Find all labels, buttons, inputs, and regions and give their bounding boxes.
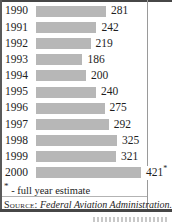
value-number: 200 <box>91 69 108 81</box>
bar <box>36 103 105 114</box>
bar-row: 1992 219 <box>0 35 172 51</box>
bar <box>36 6 106 17</box>
bar <box>36 135 117 146</box>
bar <box>36 151 116 162</box>
bar-row: 1999 321 <box>0 149 172 165</box>
source-divider <box>2 196 147 197</box>
bar-row: 1997 292 <box>0 116 172 132</box>
value-number: 292 <box>114 118 131 130</box>
value-label: 421* <box>145 166 168 180</box>
year-label: 1999 <box>0 151 36 163</box>
value-number: 186 <box>87 53 104 65</box>
footnote: * - full year estimate <box>4 182 90 196</box>
faa-bar-chart: 1990 281 1991 242 1992 219 1993 186 1994… <box>0 0 172 223</box>
bar <box>36 70 86 81</box>
value-number: 325 <box>122 134 139 146</box>
cropped-caption-fragment <box>93 217 169 222</box>
year-label: 1997 <box>0 119 36 131</box>
bar-row: 1996 275 <box>0 100 172 116</box>
value-number: 321 <box>121 150 138 162</box>
value-label: 292 <box>113 118 132 132</box>
bar-row: 1995 240 <box>0 84 172 100</box>
year-label: 1996 <box>0 102 36 114</box>
bar-row: 1993 186 <box>0 52 172 68</box>
bar-row: 1990 281 <box>0 3 172 19</box>
value-number: 219 <box>96 37 113 49</box>
year-label: 1998 <box>0 135 36 147</box>
value-label: 186 <box>86 53 105 67</box>
bar-row: 1991 242 <box>0 19 172 35</box>
estimate-marker: * <box>163 164 167 173</box>
footnote-text: - full year estimate <box>11 185 90 196</box>
source-label: Source: <box>4 199 37 210</box>
value-number: 275 <box>110 101 127 113</box>
bar <box>36 38 91 49</box>
bar <box>36 119 109 130</box>
value-number: 281 <box>111 4 128 16</box>
year-label: 1993 <box>0 54 36 66</box>
value-label: 200 <box>90 69 109 83</box>
year-label: 2000 <box>0 167 36 179</box>
bar <box>36 54 82 65</box>
source-text: Federal Aviation Administration. <box>40 199 172 210</box>
value-label: 219 <box>95 37 114 51</box>
bar <box>36 22 96 33</box>
bar-row: 1998 325 <box>0 133 172 149</box>
value-label: 275 <box>109 101 128 115</box>
bar-rows: 1990 281 1991 242 1992 219 1993 186 1994… <box>0 3 172 181</box>
value-label: 240 <box>100 85 119 99</box>
bar-row: 2000 421* <box>0 165 172 181</box>
year-label: 1990 <box>0 5 36 17</box>
footnote-marker: * <box>4 181 9 191</box>
bar-row: 1994 200 <box>0 68 172 84</box>
source-line: Source: Federal Aviation Administration. <box>4 199 172 210</box>
value-label: 321 <box>120 150 139 164</box>
value-number: 421 <box>146 166 163 178</box>
value-label: 281 <box>110 4 129 18</box>
value-label: 325 <box>121 134 140 148</box>
value-number: 242 <box>101 21 118 33</box>
year-label: 1991 <box>0 22 36 34</box>
bar <box>36 167 141 178</box>
value-label: 242 <box>100 21 119 35</box>
year-label: 1994 <box>0 70 36 82</box>
year-label: 1995 <box>0 86 36 98</box>
year-label: 1992 <box>0 38 36 50</box>
bar <box>36 87 96 98</box>
value-number: 240 <box>101 85 118 97</box>
